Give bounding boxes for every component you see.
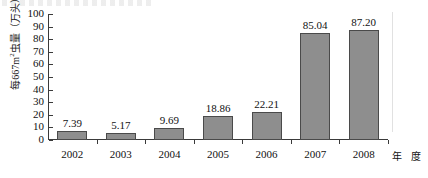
bar-value-label: 7.39 — [46, 117, 98, 129]
bar — [252, 112, 282, 140]
y-tick-mark — [49, 52, 53, 53]
x-tick-mark — [242, 140, 243, 144]
x-tick-label: 2002 — [46, 148, 98, 161]
bar — [203, 116, 233, 140]
x-tick-mark — [291, 140, 292, 144]
scan-artifact-strip — [2, 0, 152, 6]
x-tick-label: 2005 — [192, 148, 244, 161]
bar-value-label: 87.20 — [338, 16, 390, 28]
y-tick-mark — [49, 14, 53, 15]
bar — [300, 33, 330, 140]
x-tick-mark — [145, 140, 146, 144]
y-axis-title-prefix: 每667m — [10, 57, 21, 90]
y-tick-label: 40 — [33, 83, 44, 96]
y-tick: 100 — [48, 14, 54, 15]
x-tick-label: 2008 — [338, 148, 390, 161]
bar — [154, 128, 184, 140]
bar — [57, 131, 87, 140]
y-tick: 0 — [48, 140, 54, 141]
bar — [349, 30, 379, 140]
x-axis-title: 年 度 — [392, 148, 424, 163]
y-tick-label: 100 — [28, 7, 45, 20]
bar-value-label: 85.04 — [289, 19, 341, 31]
y-tick: 70 — [48, 52, 54, 53]
x-tick-label: 2003 — [95, 148, 147, 161]
chart-page: 每667m2虫量（万头） 1009080706050403020100 7.39… — [0, 0, 428, 178]
y-axis-title-suffix: 虫量（万头） — [10, 0, 21, 53]
y-tick-label: 20 — [33, 108, 44, 121]
y-tick-mark — [49, 77, 53, 78]
y-tick-label: 60 — [33, 57, 44, 70]
y-tick-mark — [49, 39, 53, 40]
y-tick-mark — [49, 64, 53, 65]
y-tick: 50 — [48, 77, 54, 78]
y-axis-title-superscript: 2 — [8, 53, 16, 57]
y-tick-label: 80 — [33, 32, 44, 45]
scan-edge-line — [392, 12, 393, 132]
x-tick-mark — [339, 140, 340, 144]
y-tick-mark — [49, 115, 53, 116]
bar-value-label: 5.17 — [95, 119, 147, 131]
y-tick: 60 — [48, 64, 54, 65]
x-tick-mark — [388, 140, 389, 144]
y-tick-mark — [49, 102, 53, 103]
y-tick: 20 — [48, 115, 54, 116]
bar-value-label: 9.69 — [143, 114, 195, 126]
y-tick-label: 70 — [33, 45, 44, 58]
bar — [106, 133, 136, 140]
y-tick: 40 — [48, 90, 54, 91]
y-tick: 90 — [48, 27, 54, 28]
y-tick: 80 — [48, 39, 54, 40]
y-tick-mark — [49, 90, 53, 91]
y-tick-label: 90 — [33, 20, 44, 33]
y-tick-label: 0 — [39, 133, 45, 146]
x-tick-label: 2007 — [289, 148, 341, 161]
y-tick-label: 30 — [33, 95, 44, 108]
plot-area: 1009080706050403020100 7.3920025.1720039… — [48, 14, 388, 140]
y-axis-title: 每667m2虫量（万头） — [7, 0, 22, 102]
x-tick-label: 2004 — [143, 148, 195, 161]
bar-value-label: 18.86 — [192, 102, 244, 114]
x-tick-mark — [194, 140, 195, 144]
bar-value-label: 22.21 — [241, 98, 293, 110]
y-tick-label: 10 — [33, 120, 44, 133]
x-tick-mark — [97, 140, 98, 144]
y-tick: 30 — [48, 102, 54, 103]
y-tick-mark — [49, 140, 53, 141]
y-tick-label: 50 — [33, 70, 44, 83]
y-tick-mark — [49, 27, 53, 28]
x-tick-label: 2006 — [241, 148, 293, 161]
